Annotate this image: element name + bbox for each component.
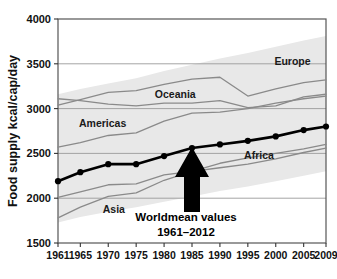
y-tick-label: 2500 [27,147,51,159]
y-tick-label: 3000 [27,103,51,115]
region-label-asia: Asia [103,203,125,215]
y-tick-label: 1500 [27,237,51,249]
y-tick-label: 3500 [27,58,51,70]
chart-container: 150020002500300035004000 196119651970197… [0,0,337,279]
region-label-americas: Americas [79,117,126,129]
worldmean-marker [77,169,83,175]
region-label-europe: Europe [274,55,310,67]
worldmean-marker [189,145,195,151]
x-tick-label: 1985 [180,249,204,261]
food-supply-line-chart: 150020002500300035004000 196119651970197… [0,0,337,279]
worldmean-marker [301,127,307,133]
region-label-africa: Africa [244,149,274,161]
y-tick-label: 2000 [27,192,51,204]
x-tick-label: 2000 [264,249,288,261]
worldmean-marker [273,133,279,139]
worldmean-marker [161,153,167,159]
x-tick-label: 1980 [152,249,176,261]
worldmean-marker [323,123,329,129]
x-tick-label: 2005 [292,249,316,261]
x-tick-label: 1965 [69,249,93,261]
worldmean-marker [55,178,61,184]
x-tick-label: 1961 [46,249,70,261]
worldmean-marker [105,161,111,167]
y-tick-label: 4000 [27,13,51,25]
worldmean-marker [133,161,139,167]
x-tick-label: 1990 [208,249,232,261]
x-tick-label: 1995 [236,249,260,261]
annotation-line-1: Worldmean values [135,211,236,223]
y-axis-label: Food supply kcal/cap/day [6,55,20,207]
worldmean-marker [245,138,251,144]
annotation-line-2: 1961–2012 [157,226,215,238]
worldmean-marker [217,141,223,147]
x-tick-label: 1970 [97,249,121,261]
region-label-oceania: Oceania [155,88,196,100]
x-tick-label: 2009 [314,249,337,261]
x-tick-label: 1975 [124,249,148,261]
